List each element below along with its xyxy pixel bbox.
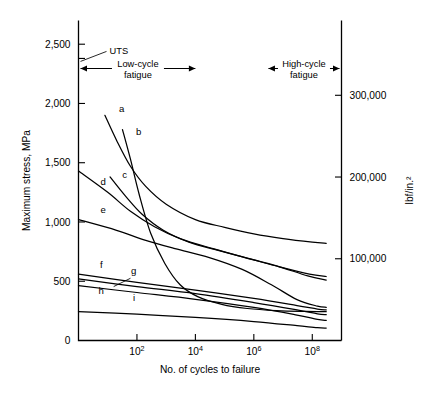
low-cycle-fatigue-arrowhead-left [81,66,88,72]
low-cycle-fatigue-label-line1: Low-cycle [117,59,158,69]
curve-label-c: c [122,169,127,180]
low-cycle-fatigue-label-line2: fatigue [124,70,152,80]
y-tick-label-4: 2,000 [45,98,71,109]
x-tick-label-2: 106 [246,344,261,357]
curve-label-g: g [131,265,136,276]
low-cycle-fatigue-arrowhead-right [189,66,196,72]
high-cycle-fatigue-arrowhead-left [268,66,275,72]
y-tick-label-2: 1,000 [45,217,71,228]
y-axis-label: Maximum stress, MPa [21,130,32,231]
y2-axis-label: lbf/in.² [404,176,415,204]
curve-label-e: e [101,204,106,215]
uts-label: UTS [110,46,129,56]
curve-label-b: b [136,126,141,137]
high-cycle-fatigue-label-line2: fatigue [290,70,318,80]
x-tick-label-1: 104 [188,344,203,357]
fatigue-sn-chart: 05001,0001,5002,0002,500100,000200,00030… [0,0,441,397]
y-tick-label-3: 1,500 [45,157,71,168]
x-tick-label-3: 108 [305,344,320,357]
y2-tick-label-0: 100,000 [350,253,387,264]
curve-f [79,274,327,310]
chart-canvas: 05001,0001,5002,0002,500100,000200,00030… [0,0,441,397]
curve-label-i: i [133,292,135,303]
curve-label-h: h [99,285,104,296]
x-tick-label-0: 102 [129,344,144,357]
curve-label-f: f [100,259,103,270]
y-tick-label-0: 0 [65,335,71,346]
y2-tick-label-2: 300,000 [350,90,387,101]
y-tick-label-1: 500 [54,276,71,287]
y2-tick-label-1: 200,000 [350,172,387,183]
curve-d [79,171,327,280]
high-cycle-fatigue-label-line1: High-cycle [282,59,325,69]
curve-g [79,279,327,315]
curve-c [110,177,326,277]
curve-i [79,312,327,328]
x-axis-label: No. of cycles to failure [160,364,261,375]
curve-label-a: a [119,103,125,114]
curve-label-d: d [101,176,106,187]
high-cycle-fatigue-arrowhead-right [333,66,340,72]
y-tick-label-5: 2,500 [45,39,71,50]
uts-leader-line [81,51,107,61]
